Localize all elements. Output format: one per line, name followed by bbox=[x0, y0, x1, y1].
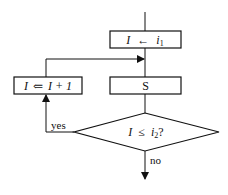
no-label: no bbox=[150, 154, 162, 166]
body-box: S bbox=[110, 77, 181, 94]
increment-label: I ⇐ I + 1 bbox=[23, 79, 72, 93]
init-label: I ← i1 bbox=[125, 33, 163, 48]
flowchart: I ← i1 I ⇐ I + 1 S I ≤ i2? yes no bbox=[0, 0, 228, 195]
increment-box: I ⇐ I + 1 bbox=[14, 77, 82, 94]
init-box: I ← i1 bbox=[110, 31, 181, 48]
body-label: S bbox=[142, 79, 149, 93]
yes-label: yes bbox=[51, 119, 66, 131]
decision-label: I ≤ i2? bbox=[127, 125, 163, 140]
loop-back-arrow bbox=[46, 59, 144, 77]
decision-diamond: I ≤ i2? bbox=[74, 113, 219, 151]
